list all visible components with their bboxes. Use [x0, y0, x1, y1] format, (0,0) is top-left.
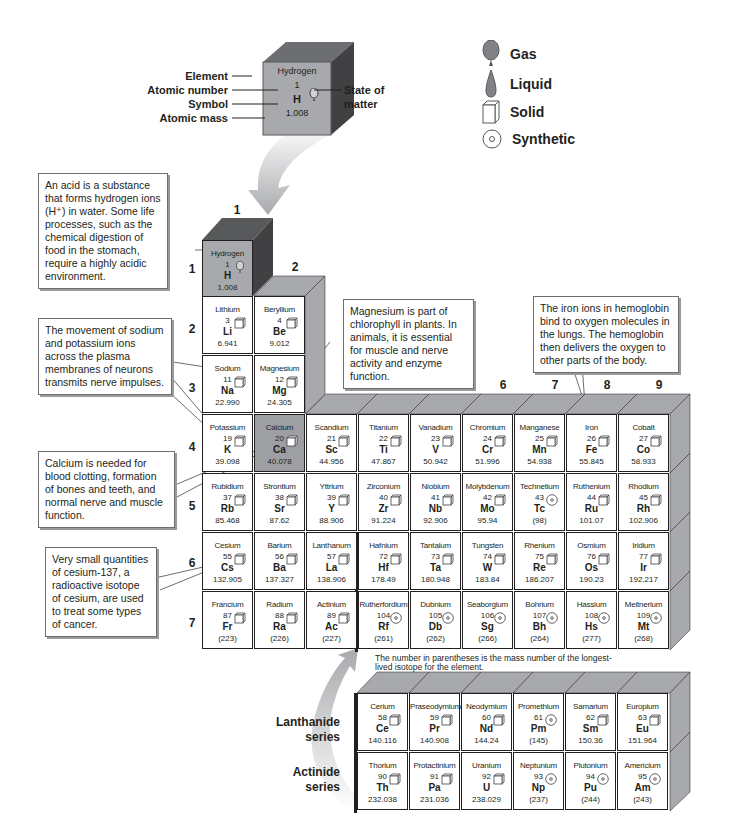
atomic-mass: 138.906 [307, 575, 356, 585]
atomic-mass: 24.305 [255, 398, 304, 408]
synthetic-circle-icon [598, 612, 610, 624]
solid-cube-icon [546, 435, 558, 447]
solid-cube-icon [494, 553, 506, 565]
element-cell-radium: Radium88Ra(226) [254, 591, 305, 649]
solid-cube-icon [442, 494, 454, 506]
element-cell-rhodium: Rhodium45Rh102.906 [618, 473, 669, 531]
atomic-mass: (268) [619, 634, 668, 644]
element-cell-europium: Europium63Eu151.964 [617, 693, 668, 751]
synthetic-circle-icon [649, 773, 661, 785]
element-cell-niobium: Niobium41Nb92.906 [410, 473, 461, 531]
atomic-mass: 101.07 [567, 516, 616, 526]
element-cell-cesium: Cesium55Cs132.905 [202, 532, 253, 590]
solid-cube-icon [650, 553, 662, 565]
atomic-mass: (98) [515, 516, 564, 526]
solid-cube-icon [494, 494, 506, 506]
solid-cube-icon [234, 376, 246, 388]
element-name: Titanium [359, 423, 408, 433]
solid-cube-icon [338, 612, 350, 624]
element-name: Rhenium [515, 541, 564, 551]
element-cell-molybdenum: Molybdenum42Mo95.94 [462, 473, 513, 531]
callout-cesium: Very small quantities of cesium-137, a r… [45, 547, 157, 637]
solid-cube-icon [494, 435, 506, 447]
element-name: Molybdenum [463, 482, 512, 492]
solid-cube-icon [390, 494, 402, 506]
element-name: Thorium [358, 761, 407, 771]
solid-cube-icon [286, 317, 298, 329]
atomic-mass: (223) [203, 634, 252, 644]
atomic-mass: 55.845 [567, 457, 616, 467]
solid-cube-icon [442, 435, 454, 447]
atomic-mass: (264) [515, 634, 564, 644]
solid-cube-icon [234, 494, 246, 506]
element-name: Neodymium [462, 702, 511, 712]
solid-cube-icon [546, 553, 558, 565]
gas-balloon-icon [234, 261, 246, 273]
atomic-mass: 151.964 [618, 736, 667, 746]
atomic-mass: 85.468 [203, 516, 252, 526]
element-name: Cobalt [619, 423, 668, 433]
element-name: Manganese [515, 423, 564, 433]
synthetic-circle-icon [546, 494, 558, 506]
element-name: Vanadium [411, 423, 460, 433]
synthetic-circle-icon [442, 612, 454, 624]
element-cell-cerium: Cerium58Ce140.116 [357, 693, 408, 751]
atomic-mass: (227) [307, 634, 356, 644]
element-name: Bohrium [515, 600, 564, 610]
atomic-mass: 40.078 [255, 457, 304, 467]
element-cell-tungsten: Tungsten74W183.84 [462, 532, 513, 590]
atomic-mass: 22.990 [203, 398, 252, 408]
synthetic-circle-icon [494, 612, 506, 624]
synthetic-circle-icon [546, 612, 558, 624]
element-name: Actinium [307, 600, 356, 610]
callout-calcium: Calcium is needed for blood clotting, fo… [38, 451, 175, 528]
atomic-mass: 231.036 [410, 795, 459, 805]
element-name: Strontium [255, 482, 304, 492]
element-name: Iron [567, 423, 616, 433]
element-name: Technetium [515, 482, 564, 492]
atomic-mass: (261) [359, 634, 408, 644]
period-label-4: 4 [185, 440, 199, 454]
atomic-mass: 137.327 [255, 575, 304, 585]
element-cell-tantalum: Tantalum73Ta180.948 [410, 532, 461, 590]
element-name: Seaborgium [463, 600, 512, 610]
element-name: Scandium [307, 423, 356, 433]
solid-cube-icon [286, 553, 298, 565]
element-cell-lanthanum: Lanthanum57La138.906 [306, 532, 357, 590]
element-name: Tungsten [463, 541, 512, 551]
atomic-mass: 140.116 [358, 736, 407, 746]
element-name: Sodium [203, 364, 252, 374]
atomic-mass: (145) [514, 736, 563, 746]
element-name: Chromium [463, 423, 512, 433]
element-cell-chromium: Chromium24Cr51.996 [462, 414, 513, 472]
element-name: Iridium [619, 541, 668, 551]
solid-cube-icon [234, 612, 246, 624]
atomic-mass: 9.012 [255, 339, 304, 349]
callout-hydrogen: An acid is a substance that forms hydrog… [38, 173, 168, 289]
element-cell-hydrogen: Hydrogen1H1.008 [202, 240, 253, 298]
solid-cube-icon [598, 435, 610, 447]
solid-cube-icon [441, 773, 453, 785]
atomic-mass: 6.941 [203, 339, 252, 349]
atomic-mass: 87.62 [255, 516, 304, 526]
atomic-mass: (243) [618, 795, 667, 805]
solid-cube-icon [286, 494, 298, 506]
atomic-mass: 44.956 [307, 457, 356, 467]
element-name: Lithium [203, 305, 252, 315]
synthetic-circle-icon [597, 773, 609, 785]
atomic-mass: (262) [411, 634, 460, 644]
element-cell-zirconium: Zirconium40Zr91.224 [358, 473, 409, 531]
element-name: Potassium [203, 423, 252, 433]
atomic-mass: 88.906 [307, 516, 356, 526]
period-label-2: 2 [185, 322, 199, 336]
atomic-mass: (244) [566, 795, 615, 805]
atomic-mass: 54.938 [515, 457, 564, 467]
element-name: Praseodymium [410, 702, 459, 712]
atomic-mass: 39.098 [203, 457, 252, 467]
atomic-mass: 132.905 [203, 575, 252, 585]
atomic-mass: (226) [255, 634, 304, 644]
atomic-mass: 1.008 [203, 283, 252, 293]
solid-cube-icon [338, 494, 350, 506]
group-label-7: 7 [545, 378, 565, 392]
element-name: Plutonium [566, 761, 615, 771]
